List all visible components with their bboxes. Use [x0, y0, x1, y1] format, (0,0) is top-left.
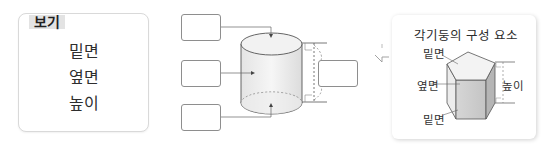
prism-side-face [456, 80, 486, 119]
prism-top-base [447, 52, 495, 80]
prism-diagram [0, 0, 552, 150]
